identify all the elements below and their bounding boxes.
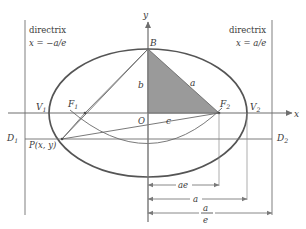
directrix-left-equation: x = −a/e [29, 38, 66, 48]
dimension-label-ae: ae [178, 180, 188, 190]
origin-label: O [138, 116, 145, 126]
dimension-label-a: a [193, 194, 198, 204]
point-p-marker [61, 138, 64, 141]
label-semi-major: a [190, 78, 195, 88]
dimension-label-a-over-e-numerator: a [203, 203, 208, 213]
focus-left-marker [84, 112, 87, 115]
ellipse-diagram: x y O directrix x = −a/e directrix x = a… [0, 0, 306, 229]
co-vertex-top-label: B [149, 38, 157, 48]
diagram-canvas: x y O directrix x = −a/e directrix x = a… [0, 0, 306, 229]
shaded-triangle [148, 49, 219, 113]
focus-right-label: F2 [219, 99, 230, 110]
focus-left-label: F1 [67, 99, 78, 110]
point-p-label: P(x, y) [28, 140, 56, 150]
directrix-left-endpoint-label: D1 [6, 133, 18, 144]
label-semi-minor: b [138, 80, 144, 90]
segment-p-to-focus1 [62, 113, 85, 139]
directrix-left-caption: directrix [29, 25, 66, 35]
directrix-right-equation: x = a/e [236, 38, 266, 48]
directrix-right-endpoint-label: D2 [276, 133, 288, 144]
directrix-right-caption: directrix [229, 25, 266, 35]
x-axis-label: x [294, 109, 299, 119]
dimension-label-a-over-e-denominator: e [203, 215, 208, 225]
y-axis-label: y [142, 10, 149, 20]
label-focal-distance: c [166, 116, 171, 126]
vertex-right-label: V2 [250, 102, 261, 113]
vertex-left-label: V1 [36, 102, 46, 113]
